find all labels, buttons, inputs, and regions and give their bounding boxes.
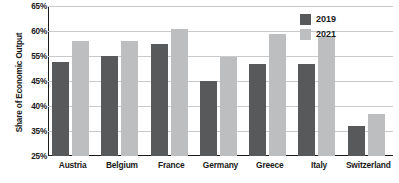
bar-chart: Share of Economic Output 65%60%55%45%40%… [0,0,399,183]
bar-2021-germany [220,57,237,156]
bar-2019-greece [249,64,266,157]
legend-item-2021: 2021 [300,29,336,40]
plot-area [48,6,393,156]
y-axis-tick-label: 60% [17,27,47,36]
bar-group [147,6,196,156]
bar-group [196,6,245,156]
bar-group [344,6,393,156]
bar-2019-france [151,44,168,157]
x-axis-label-germany: Germany [203,160,238,170]
legend: 20192021 [300,14,336,40]
bar-group [245,6,294,156]
bar-2019-switzerland [348,126,365,156]
bar-2021-italy [318,36,335,156]
bar-2019-belgium [101,56,118,156]
bar-2021-belgium [121,41,138,156]
x-axis-label-belgium: Belgium [106,160,138,170]
y-axis-tick-label: 65% [17,2,47,11]
x-axis-label-italy: Italy [311,160,327,170]
y-axis-tick-label: 35% [17,127,47,136]
x-axis-label-france: France [158,160,185,170]
x-axis-label-austria: Austria [59,160,87,170]
y-axis-tick-label: 45% [17,77,47,86]
y-axis-tick-label: 40% [17,102,47,111]
bar-2019-austria [52,62,69,156]
bar-2021-austria [72,41,89,156]
y-axis-tick-label: 55% [17,52,47,61]
bar-2019-italy [298,64,315,157]
bar-group [97,6,146,156]
y-axis-tick-label: 25% [17,152,47,161]
legend-label: 2021 [316,30,336,39]
x-axis-label-greece: Greece [256,160,284,170]
bar-2021-france [171,29,188,157]
bar-2021-greece [269,34,286,157]
bar-2019-germany [200,81,217,156]
legend-item-2019: 2019 [300,14,336,25]
bar-group [48,6,97,156]
legend-swatch-icon [300,29,311,40]
x-axis-label-switzerland: Switzerland [346,160,391,170]
legend-label: 2019 [316,15,336,24]
legend-swatch-icon [300,14,311,25]
gridline [48,156,393,157]
bar-2021-switzerland [368,114,385,157]
